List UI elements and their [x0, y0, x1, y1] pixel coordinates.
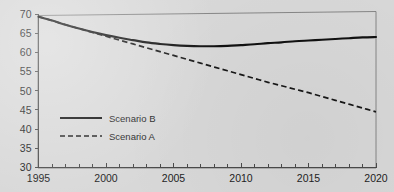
x-tick-label-2015: 2015	[297, 172, 321, 184]
chart-container: 303540455055606570 199520002005201020152…	[0, 0, 394, 192]
y-tick-label-45: 45	[20, 104, 32, 116]
x-tick-label-2005: 2005	[162, 172, 186, 184]
x-tick-label-1995: 1995	[27, 172, 51, 184]
y-axis-tick-labels: 303540455055606570	[20, 8, 32, 174]
x-tick-label-2020: 2020	[364, 172, 388, 184]
y-tick-label-65: 65	[20, 27, 32, 39]
y-tick-label-70: 70	[20, 8, 32, 20]
legend-label-scenario-b: Scenario B	[109, 113, 155, 124]
x-tick-label-2000: 2000	[94, 172, 118, 184]
chart-background	[0, 0, 394, 192]
y-tick-label-50: 50	[20, 85, 32, 97]
y-tick-label-60: 60	[20, 46, 32, 58]
x-tick-label-2010: 2010	[229, 172, 253, 184]
y-tick-label-35: 35	[20, 142, 32, 154]
scenario-line-chart: 303540455055606570 199520002005201020152…	[0, 0, 394, 192]
y-tick-label-40: 40	[20, 123, 32, 135]
legend-label-scenario-a: Scenario A	[109, 131, 156, 142]
y-tick-label-55: 55	[20, 65, 32, 77]
